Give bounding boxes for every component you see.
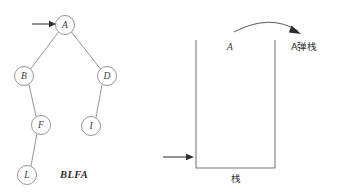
tree-nodes: A B D F I L [15,16,117,185]
tree-node-l[interactable]: L [18,166,37,185]
edge-f-l [31,134,37,167]
node-label-l: L [23,170,29,180]
pop-stack-label: A弹栈 [291,41,318,52]
tree-node-d[interactable]: D [98,67,117,86]
tree-node-f[interactable]: F [32,116,51,135]
pop-curve-arrow [234,22,301,34]
node-label-a: A [61,20,68,30]
figure-canvas: A B D F I L [0,0,337,196]
stack-input-arrow [163,154,194,160]
tree-edges [29,32,102,166]
stack-input-head [186,154,194,160]
edge-a-b [31,32,59,69]
tree-node-a[interactable]: A [56,16,75,35]
tree-node-i[interactable]: I [82,117,101,136]
root-pointer-head [49,21,56,27]
pop-curve-path [234,22,298,32]
stack-outline [196,40,275,168]
stack-top-item-label: A [226,42,233,52]
edge-b-f [29,85,36,117]
diagram-svg: A B D F I L [0,0,337,196]
node-label-b: B [21,71,27,81]
node-label-f: F [37,120,44,130]
edge-d-i [96,85,102,118]
node-label-d: D [103,71,111,81]
stack-container [196,40,275,168]
tree-node-b[interactable]: B [15,67,34,86]
stack-bottom-label: 栈 [231,173,241,184]
edge-a-d [72,32,101,69]
traversal-sequence-label: BLFA [59,169,88,180]
root-pointer-arrow [32,21,56,27]
